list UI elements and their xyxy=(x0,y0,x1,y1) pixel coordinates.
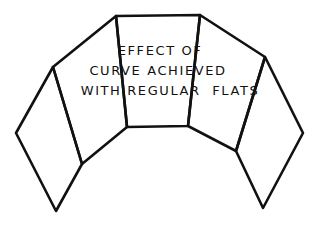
caption-line-2: CURVE ACHIEVED xyxy=(89,63,226,78)
curved-flats-diagram: EFFECT OF CURVE ACHIEVED WITH REGULAR FL… xyxy=(0,0,316,230)
far-left-flat xyxy=(16,67,82,211)
caption: EFFECT OF CURVE ACHIEVED WITH REGULAR FL… xyxy=(81,43,260,98)
far-right-flat xyxy=(236,57,303,208)
caption-line-3: WITH REGULAR FLATS xyxy=(81,83,260,98)
caption-line-1: EFFECT OF xyxy=(118,43,203,58)
